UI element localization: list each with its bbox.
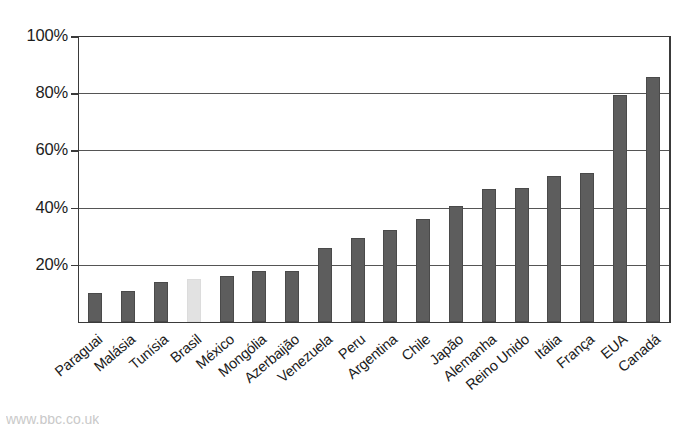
- bar: [351, 238, 365, 322]
- bar: [154, 282, 168, 322]
- y-axis-tick: [71, 93, 78, 95]
- bar: [482, 189, 496, 322]
- bar: [613, 95, 627, 322]
- y-axis-tick-label: 60%: [2, 140, 68, 159]
- y-axis-tick: [71, 150, 78, 152]
- bar: [383, 230, 397, 322]
- y-axis-tick-label: 40%: [2, 198, 68, 217]
- bar: [121, 291, 135, 322]
- bottom-cutoff-caption: www.bbc.co.uk: [6, 415, 99, 427]
- bar: [285, 271, 299, 322]
- plot-right-edge: [669, 36, 671, 323]
- bar: [646, 77, 660, 322]
- y-axis-tick-label: 80%: [2, 83, 68, 102]
- bar: [416, 219, 430, 322]
- bar: [252, 271, 266, 322]
- x-axis-labels: ParaguaiMalásiaTunísiaBrasilMéxicoMongól…: [0, 323, 693, 403]
- bar: [580, 173, 594, 322]
- bar-chart: 20%40%60%80%100% ParaguaiMalásiaTunísiaB…: [0, 0, 693, 427]
- bar-series: [79, 36, 669, 322]
- y-axis-tick: [71, 208, 78, 210]
- bar: [449, 206, 463, 322]
- bar: [515, 188, 529, 322]
- y-axis-tick-label: 20%: [2, 255, 68, 274]
- y-axis-tick-label: 100%: [2, 26, 68, 45]
- bar: [220, 276, 234, 322]
- bar: [318, 248, 332, 322]
- top-cutoff-text: [38, 0, 338, 9]
- bar: [547, 176, 561, 322]
- bar: [187, 279, 201, 322]
- bar: [88, 293, 102, 322]
- y-axis-tick: [71, 265, 78, 267]
- y-axis-tick: [71, 36, 78, 38]
